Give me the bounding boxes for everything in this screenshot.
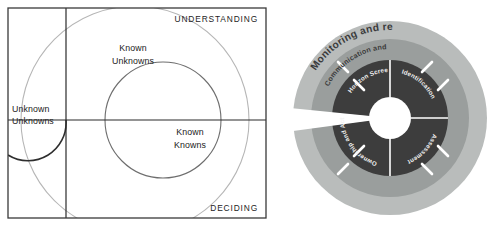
figure-canvas: UNDERSTANDING DECIDING Unknown Unknowns … [0, 0, 493, 233]
axis-label-understanding: UNDERSTANDING [175, 14, 258, 24]
cell-label-known-knowns-line1: Known [176, 127, 203, 137]
risk-management-wheel-diagram: Monitoring and review Communication and … [280, 0, 493, 233]
cell-label-unknown-unknowns-line2: Unknowns [12, 116, 54, 126]
cell-label-known-unknowns-line2: Unknowns [112, 56, 154, 66]
cell-label-known-unknowns-line1: Known [119, 43, 146, 53]
knowledge-quadrant-diagram: UNDERSTANDING DECIDING Unknown Unknowns … [0, 0, 280, 233]
cell-label-known-knowns-line2: Knowns [174, 140, 206, 150]
axis-label-deciding: DECIDING [210, 203, 258, 213]
cell-label-unknown-unknowns-line1: Unknown [12, 104, 49, 114]
